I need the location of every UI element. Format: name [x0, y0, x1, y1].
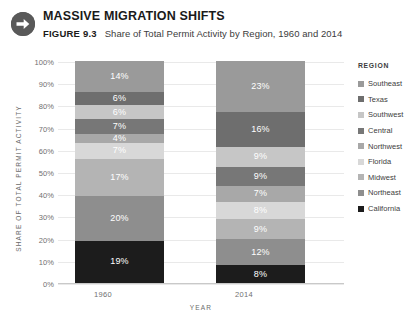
- legend-swatch-icon: [358, 174, 364, 180]
- bar-segment-value: 23%: [251, 82, 270, 91]
- bar-segment-florida[interactable]: 7%: [75, 143, 164, 159]
- x-axis-tick-2014: 2014: [184, 290, 304, 299]
- x-axis-title: YEAR: [58, 304, 344, 311]
- legend-item-texas[interactable]: Texas: [358, 92, 419, 108]
- legend-item-northwest[interactable]: Northwest: [358, 138, 419, 154]
- arrow-right-circle-icon: [11, 12, 35, 36]
- bar-segment-value: 6%: [113, 108, 126, 117]
- bar-segment-value: 12%: [251, 248, 270, 257]
- bar-segment-florida[interactable]: 8%: [216, 202, 305, 220]
- bar-segment-southeast[interactable]: 14%: [75, 61, 164, 92]
- legend-item-northeast[interactable]: Northeast: [358, 185, 419, 201]
- chart-container: SHARE OF TOTAL PERMIT ACTIVITY 100%90%80…: [0, 52, 419, 320]
- legend-item-label: Florida: [368, 157, 391, 166]
- bar-segment-southwest[interactable]: 9%: [216, 147, 305, 167]
- bar-segment-texas[interactable]: 6%: [75, 92, 164, 105]
- bar-segment-central[interactable]: 7%: [75, 119, 164, 135]
- legend-item-label: Southeast: [368, 79, 402, 88]
- bar-segment-northeast[interactable]: 12%: [216, 239, 305, 265]
- bar-segment-value: 16%: [251, 125, 270, 134]
- bar-segment-value: 7%: [254, 189, 267, 198]
- legend-swatch-icon: [358, 206, 364, 212]
- bar-segment-california[interactable]: 19%: [75, 241, 164, 283]
- legend-item-label: Central: [368, 126, 393, 135]
- bar-segment-value: 9%: [254, 225, 267, 234]
- legend-items: SoutheastTexasSouthwestCentralNorthwestF…: [358, 76, 419, 216]
- bar-segment-midwest[interactable]: 17%: [75, 159, 164, 197]
- figure-title: MASSIVE MIGRATION SHIFTS: [43, 9, 225, 23]
- legend-swatch-icon: [358, 96, 364, 102]
- y-axis-tick-20pct: 20%: [14, 236, 54, 245]
- y-axis-tick-90pct: 90%: [14, 80, 54, 89]
- legend-swatch-icon: [358, 128, 364, 134]
- legend-item-midwest[interactable]: Midwest: [358, 170, 419, 186]
- bar-segment-value: 4%: [113, 134, 126, 143]
- y-axis-tick-50pct: 50%: [14, 169, 54, 178]
- bar-segment-northwest[interactable]: 7%: [216, 186, 305, 201]
- legend-item-label: Northeast: [368, 188, 401, 197]
- legend-item-florida[interactable]: Florida: [358, 154, 419, 170]
- y-axis-tick-100pct: 100%: [14, 58, 54, 67]
- bar-segment-value: 19%: [110, 257, 129, 266]
- figure-caption: FIGURE 9.3 Share of Total Permit Activit…: [43, 28, 342, 39]
- y-axis-tick-70pct: 70%: [14, 125, 54, 134]
- bar-segment-value: 9%: [254, 172, 267, 181]
- y-axis-tick-60pct: 60%: [14, 147, 54, 156]
- bar-segment-southwest[interactable]: 6%: [75, 105, 164, 118]
- bar-segment-california[interactable]: 8%: [216, 265, 305, 283]
- bar-segment-value: 9%: [254, 152, 267, 161]
- figure-caption-text: Share of Total Permit Activity by Region…: [105, 28, 343, 39]
- legend-item-label: California: [368, 204, 400, 213]
- y-axis-tick-10pct: 10%: [14, 258, 54, 267]
- bar-segment-northwest[interactable]: 4%: [75, 134, 164, 143]
- stacked-bar-2014[interactable]: 23%16%9%9%7%8%9%12%8%: [216, 61, 305, 283]
- legend-item-label: Midwest: [368, 173, 396, 182]
- legend-swatch-icon: [358, 81, 364, 87]
- legend-swatch-icon: [358, 190, 364, 196]
- legend-item-label: Texas: [368, 95, 388, 104]
- legend-item-label: Northwest: [368, 142, 402, 151]
- axis-baseline: [58, 283, 344, 284]
- bar-segment-value: 8%: [254, 270, 267, 279]
- legend-item-central[interactable]: Central: [358, 123, 419, 139]
- y-axis-tick-0pct: 0%: [14, 280, 54, 289]
- legend: REGION SoutheastTexasSouthwestCentralNor…: [358, 62, 419, 216]
- legend-item-label: Southwest: [368, 110, 403, 119]
- bar-segment-value: 7%: [113, 122, 126, 131]
- legend-item-southeast[interactable]: Southeast: [358, 76, 419, 92]
- bar-segment-value: 7%: [113, 146, 126, 155]
- figure-header: MASSIVE MIGRATION SHIFTS FIGURE 9.3 Shar…: [0, 0, 419, 50]
- figure-number: FIGURE 9.3: [43, 28, 97, 39]
- legend-swatch-icon: [358, 112, 364, 118]
- legend-item-california[interactable]: California: [358, 201, 419, 217]
- bar-segment-value: 14%: [110, 72, 129, 81]
- legend-swatch-icon: [358, 143, 364, 149]
- legend-item-southwest[interactable]: Southwest: [358, 107, 419, 123]
- plot-area: 14%6%6%7%4%7%17%20%19% 23%16%9%9%7%8%9%1…: [58, 62, 344, 284]
- bar-segment-value: 8%: [254, 206, 267, 215]
- bar-segment-northeast[interactable]: 20%: [75, 196, 164, 240]
- bar-segment-value: 20%: [110, 214, 129, 223]
- bar-segment-midwest[interactable]: 9%: [216, 219, 305, 239]
- y-axis-tick-80pct: 80%: [14, 102, 54, 111]
- stacked-bar-1960[interactable]: 14%6%6%7%4%7%17%20%19%: [75, 61, 164, 283]
- x-axis-tick-1960: 1960: [43, 290, 163, 299]
- bar-segment-texas[interactable]: 16%: [216, 112, 305, 147]
- bar-segment-value: 17%: [110, 173, 129, 182]
- legend-swatch-icon: [358, 159, 364, 165]
- y-axis-tick-30pct: 30%: [14, 213, 54, 222]
- bar-segment-central[interactable]: 9%: [216, 167, 305, 187]
- bar-segment-southeast[interactable]: 23%: [216, 61, 305, 112]
- bar-segment-value: 6%: [113, 94, 126, 103]
- legend-title: REGION: [358, 62, 419, 69]
- y-axis-tick-40pct: 40%: [14, 191, 54, 200]
- gridline: [58, 284, 344, 285]
